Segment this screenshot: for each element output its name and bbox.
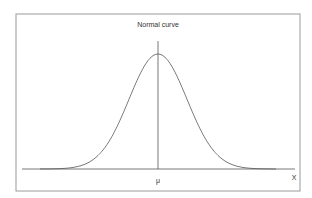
x-axis-label: X [292,174,297,181]
mean-label: μ [156,177,160,185]
normal-curve-diagram: Normal curve μ X [0,0,312,198]
diagram-title: Normal curve [137,21,179,28]
